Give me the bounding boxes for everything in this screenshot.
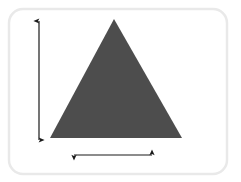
figure-canvas: [0, 0, 241, 182]
figure-container: A dark gray isosceles triangle inside a …: [0, 0, 241, 182]
